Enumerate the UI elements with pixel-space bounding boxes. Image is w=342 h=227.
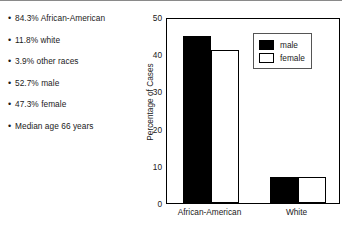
legend-label-male: male (280, 40, 298, 50)
x-axis-label-african-american: African-American (178, 207, 242, 217)
list-item: • 3.9% other races (8, 56, 140, 67)
list-item: • 84.3% African-American (8, 13, 140, 24)
demographics-bullet-list: • 84.3% African-American • 11.8% white •… (8, 13, 140, 142)
y-axis-tick-10: 10 (153, 162, 162, 171)
y-axis-tick-50: 50 (153, 14, 162, 23)
bar-chart: Percentage of Cases 01020304050 male fem… (128, 9, 342, 227)
plot-area: male female (166, 18, 340, 204)
legend-item-female: female (259, 51, 305, 64)
list-item: • 11.8% white (8, 35, 140, 46)
y-axis-tick-20: 20 (153, 125, 162, 134)
x-axis-tick-labels: African-AmericanWhite (166, 207, 340, 221)
y-axis-tick-30: 30 (153, 88, 162, 97)
bullet-marker-icon: • (8, 78, 15, 89)
bullet-marker-icon: • (8, 99, 15, 110)
list-item-label: Median age 66 years (15, 121, 93, 132)
list-item-label: 84.3% African-American (15, 13, 105, 24)
list-item-label: 3.9% other races (15, 56, 79, 67)
y-axis-tick-0: 0 (157, 200, 162, 209)
bullet-marker-icon: • (8, 13, 15, 24)
x-axis-label-white: White (286, 207, 307, 217)
list-item: • 47.3% female (8, 99, 140, 110)
bar-african-american-female (211, 50, 239, 203)
legend-item-male: male (259, 38, 305, 51)
bar-african-american-male (183, 36, 211, 203)
legend-swatch-male-icon (259, 40, 274, 50)
y-axis-tick-40: 40 (153, 51, 162, 60)
bullet-marker-icon: • (8, 35, 15, 46)
bullet-marker-icon: • (8, 56, 15, 67)
list-item-label: 47.3% female (15, 99, 66, 110)
figure-panel: • 84.3% African-American • 11.8% white •… (0, 0, 342, 227)
list-item-label: 52.7% male (15, 78, 59, 89)
legend-label-female: female (280, 53, 305, 63)
list-item: • Median age 66 years (8, 121, 140, 132)
bar-white-female (298, 177, 326, 203)
bullet-marker-icon: • (8, 121, 15, 132)
list-item-label: 11.8% white (15, 35, 60, 46)
y-axis-tick-labels: 01020304050 (140, 9, 162, 227)
legend-swatch-female-icon (259, 53, 274, 63)
bar-white-male (270, 177, 298, 203)
chart-legend: male female (253, 33, 312, 69)
list-item: • 52.7% male (8, 78, 140, 89)
